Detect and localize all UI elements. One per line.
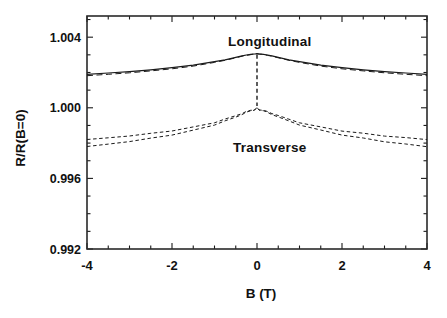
- y-tick-label: 1.000: [50, 101, 81, 115]
- longitudinal-curve-label: Longitudinal: [228, 33, 311, 48]
- y-axis-label: R/R(B=0): [13, 109, 28, 166]
- x-tick-label: -4: [81, 258, 93, 273]
- transverse-curve-label: Transverse: [233, 139, 306, 154]
- x-tick-label: 4: [423, 258, 431, 273]
- plot-frame: [87, 16, 427, 249]
- y-tick-label: 0.996: [50, 172, 81, 186]
- y-tick-label: 0.992: [50, 243, 81, 257]
- magnetoresistance-figure: -4-20240.9920.9961.0001.004 Longitudinal…: [0, 0, 447, 318]
- x-axis-label: B (T): [246, 286, 277, 301]
- x-tick-label: 2: [338, 258, 345, 273]
- y-tick-label: 1.004: [50, 31, 81, 45]
- x-tick-label: 0: [253, 258, 260, 273]
- plot-area: -4-20240.9920.9961.0001.004: [0, 0, 447, 318]
- x-tick-label: -2: [166, 258, 178, 273]
- x-tick-labels: -4-2024: [81, 258, 431, 273]
- series-transverse-dashed-upper: [87, 107, 427, 139]
- y-tick-labels: 0.9920.9961.0001.004: [50, 31, 81, 257]
- axis-ticks: [87, 16, 427, 249]
